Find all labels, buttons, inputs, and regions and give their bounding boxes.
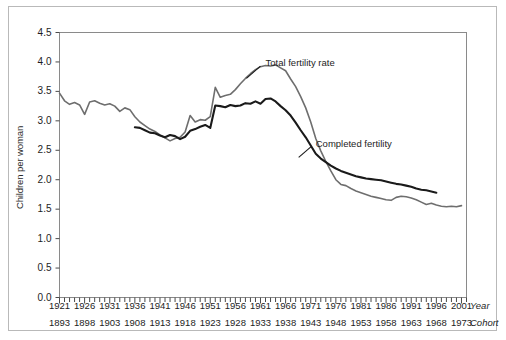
annotation-leader-1	[299, 146, 312, 157]
y-tick-label: 4.5	[22, 27, 52, 38]
y-tick-label: 2.5	[22, 144, 52, 155]
annotation-leader-0	[246, 66, 260, 78]
series-line-total-fertility-rate	[60, 65, 462, 207]
series-group	[60, 65, 462, 207]
plot-frame	[60, 33, 467, 298]
axes-group	[56, 33, 467, 304]
y-tick-label: 0.5	[22, 262, 52, 273]
y-tick-label: 1.5	[22, 203, 52, 214]
y-tick-label: 2.0	[22, 174, 52, 185]
y-tick-label: 3.0	[22, 115, 52, 126]
series-label-completed-fertility: Completed fertility	[316, 138, 392, 149]
x-axis-label-cohort: Cohort	[470, 317, 499, 328]
y-tick-label: 1.0	[22, 233, 52, 244]
figure-container: Children per woman 0.00.51.01.52.02.53.0…	[0, 0, 506, 340]
y-tick-label: 3.5	[22, 85, 52, 96]
y-tick-label: 4.0	[22, 56, 52, 67]
line-chart	[0, 0, 506, 340]
x-axis-label-year: Year	[470, 300, 490, 311]
series-label-total-fertility-rate: Total fertility rate	[266, 57, 335, 68]
